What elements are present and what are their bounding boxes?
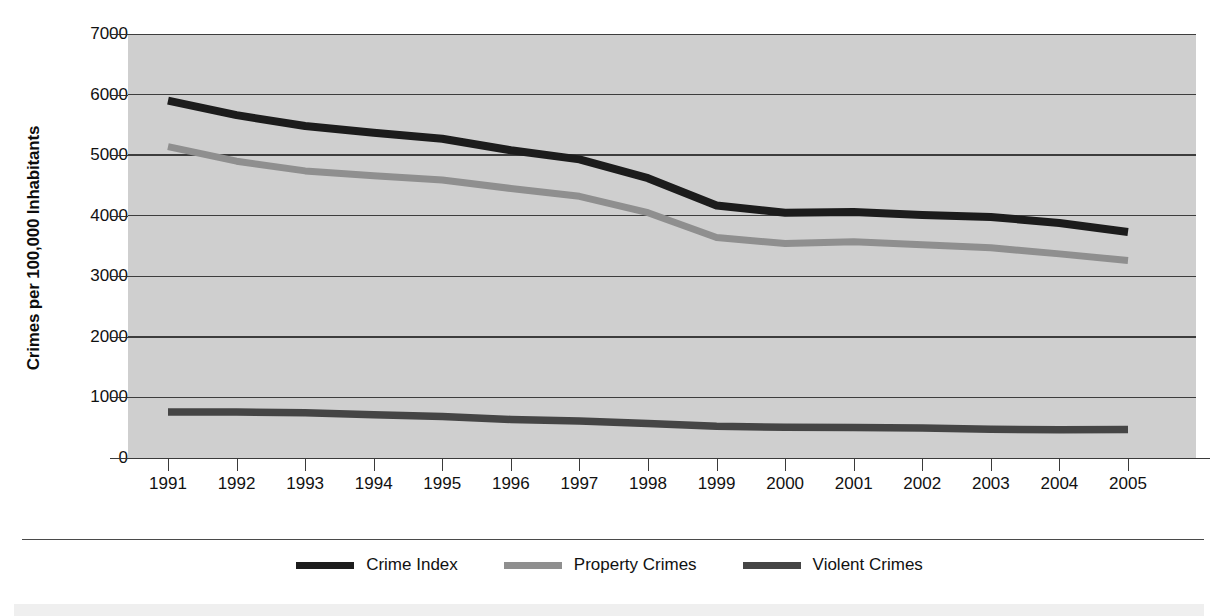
x-tick-label: 2005 — [1088, 474, 1168, 494]
x-tick-mark — [854, 459, 855, 471]
series-line-2 — [168, 412, 1128, 430]
x-tick-mark — [785, 459, 786, 471]
y-tick-mark — [110, 34, 128, 35]
plot-area — [128, 34, 1196, 458]
series-line-1 — [168, 147, 1128, 261]
y-tick-mark — [110, 95, 128, 96]
legend-label-0: Crime Index — [366, 555, 458, 575]
x-tick-mark — [648, 459, 649, 471]
y-tick-mark — [110, 397, 128, 398]
y-tick-mark — [110, 216, 128, 217]
y-tick-mark — [110, 337, 128, 338]
x-tick-mark — [991, 459, 992, 471]
legend-item-0: Crime Index — [296, 555, 458, 575]
x-tick-mark — [922, 459, 923, 471]
chart-legend: Crime IndexProperty CrimesViolent Crimes — [0, 555, 1219, 575]
x-tick-mark — [1128, 459, 1129, 471]
legend-swatch-1 — [504, 562, 562, 569]
x-tick-mark — [579, 459, 580, 471]
x-tick-mark — [442, 459, 443, 471]
x-tick-mark — [511, 459, 512, 471]
x-tick-mark — [1059, 459, 1060, 471]
x-tick-mark — [305, 459, 306, 471]
x-tick-mark — [374, 459, 375, 471]
crime-trends-chart: Crimes per 100,000 Inhabitants 010002000… — [0, 0, 1219, 616]
legend-swatch-2 — [743, 562, 801, 569]
plot-canvas — [128, 34, 1196, 458]
x-axis-line — [110, 458, 1210, 459]
y-tick-mark — [110, 155, 128, 156]
page-bottom-band — [14, 604, 1204, 616]
legend-label-2: Violent Crimes — [813, 555, 923, 575]
legend-divider — [22, 539, 1204, 540]
x-tick-mark — [717, 459, 718, 471]
x-tick-mark — [168, 459, 169, 471]
x-tick-mark — [237, 459, 238, 471]
legend-label-1: Property Crimes — [574, 555, 697, 575]
legend-item-1: Property Crimes — [504, 555, 697, 575]
legend-swatch-0 — [296, 562, 354, 569]
legend-item-2: Violent Crimes — [743, 555, 923, 575]
y-tick-mark — [110, 276, 128, 277]
